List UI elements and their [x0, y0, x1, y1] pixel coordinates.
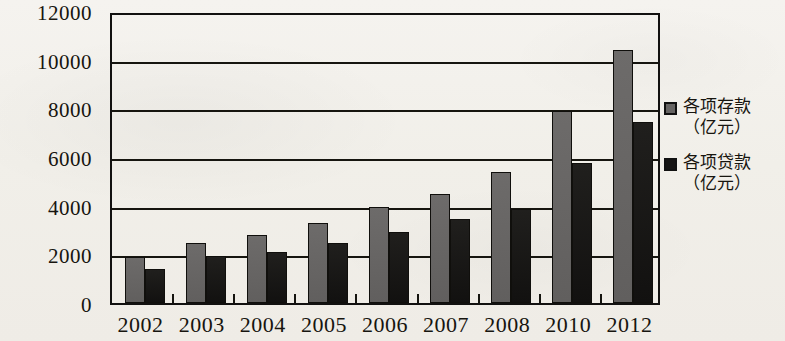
legend-label: 各项贷款（亿元）	[683, 152, 751, 194]
y-axis-tick-labels: 020004000600080001000012000	[0, 0, 98, 341]
legend-swatch-deposits	[664, 102, 677, 115]
x-axis-tick	[417, 294, 419, 303]
y-axis-tick-label: 2000	[48, 246, 92, 267]
bar-deposits	[308, 223, 328, 303]
bar-loans	[572, 163, 592, 303]
chart-legend: 各项存款（亿元）各项贷款（亿元）	[664, 96, 785, 208]
bar-group	[112, 15, 173, 303]
x-axis-tick	[355, 294, 357, 303]
x-axis-tick-label: 2002	[118, 312, 164, 338]
bar-loans	[389, 232, 409, 303]
bar-loans	[145, 269, 165, 303]
bar-group	[540, 15, 601, 303]
x-axis-tick	[600, 294, 602, 303]
bar-deposits	[491, 172, 511, 303]
legend-label-line2: （亿元）	[683, 173, 751, 194]
plot-area	[110, 13, 660, 305]
x-axis-tick	[233, 294, 235, 303]
y-axis-tick-label: 8000	[48, 100, 92, 121]
legend-label-line1: 各项存款	[683, 96, 751, 116]
bar-deposits	[369, 207, 389, 303]
bar-group	[418, 15, 479, 303]
x-axis-tick-label: 2006	[362, 312, 408, 338]
bar-deposits	[552, 111, 572, 303]
y-axis-tick-label: 4000	[48, 197, 92, 218]
bar-series-container	[112, 15, 658, 303]
legend-label: 各项存款（亿元）	[683, 96, 751, 138]
bar-deposits	[430, 194, 450, 304]
y-axis-tick-label: 0	[81, 295, 92, 316]
x-axis-tick	[172, 294, 174, 303]
x-axis-tick	[294, 294, 296, 303]
x-axis-tick-label: 2004	[240, 312, 286, 338]
bar-group	[479, 15, 540, 303]
bar-loans	[450, 219, 470, 303]
x-axis-tick-labels: 200220032004200520062007200820102012	[110, 312, 660, 341]
bar-group	[295, 15, 356, 303]
bar-loans	[328, 243, 348, 303]
bar-loans	[633, 122, 653, 303]
legend-entry: 各项存款（亿元）	[664, 96, 785, 138]
bar-group	[356, 15, 417, 303]
legend-entry: 各项贷款（亿元）	[664, 152, 785, 194]
bar-group	[601, 15, 662, 303]
bar-group	[173, 15, 234, 303]
legend-swatch-loans	[664, 158, 677, 171]
x-axis-tick	[539, 294, 541, 303]
bar-deposits	[247, 235, 267, 303]
x-axis-tick-label: 2008	[484, 312, 530, 338]
bar-loans	[267, 252, 287, 303]
bar-deposits	[125, 257, 145, 303]
bar-loans	[511, 209, 531, 303]
x-axis-tick-label: 2003	[179, 312, 225, 338]
x-axis-tick-label: 2010	[545, 312, 591, 338]
x-axis-tick	[478, 294, 480, 303]
bar-deposits	[186, 243, 206, 303]
y-axis-tick-label: 12000	[37, 3, 92, 24]
bar-loans	[206, 256, 226, 303]
bar-group	[234, 15, 295, 303]
x-axis-tick-label: 2012	[606, 312, 652, 338]
bar-deposits	[613, 50, 633, 303]
legend-label-line1: 各项贷款	[683, 152, 751, 172]
legend-label-line2: （亿元）	[683, 117, 751, 138]
x-axis-tick-label: 2005	[301, 312, 347, 338]
y-axis-tick-label: 6000	[48, 149, 92, 170]
x-axis-tick-label: 2007	[423, 312, 469, 338]
y-axis-tick-label: 10000	[37, 51, 92, 72]
chart-page: 020004000600080001000012000 200220032004…	[0, 0, 785, 341]
